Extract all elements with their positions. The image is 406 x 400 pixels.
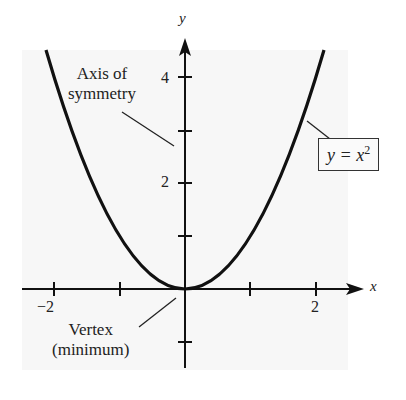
axis-of-symmetry-annotation: Axis of symmetry <box>68 64 136 104</box>
x-tick-label-2: 2 <box>311 298 319 316</box>
axis-of-symmetry-line2: symmetry <box>68 84 136 104</box>
vertex-annotation: Vertex (minimum) <box>52 320 129 360</box>
vertex-line1: Vertex <box>52 320 129 340</box>
vertex-line2: (minimum) <box>52 340 129 360</box>
axis-of-symmetry-line1: Axis of <box>68 64 136 84</box>
y-tick-label-2: 2 <box>161 173 169 191</box>
equation-base: y = x <box>327 145 364 165</box>
equation-exponent: 2 <box>364 143 370 157</box>
chart-figure: y x −2 2 2 4 Axis of symmetry Vertex (mi… <box>0 0 406 400</box>
x-axis-label: x <box>370 278 377 295</box>
y-tick-label-4: 4 <box>161 69 169 87</box>
equation-box: y = x2 <box>318 138 379 171</box>
y-axis-label: y <box>179 10 186 27</box>
x-tick-label-neg2: −2 <box>37 298 54 316</box>
